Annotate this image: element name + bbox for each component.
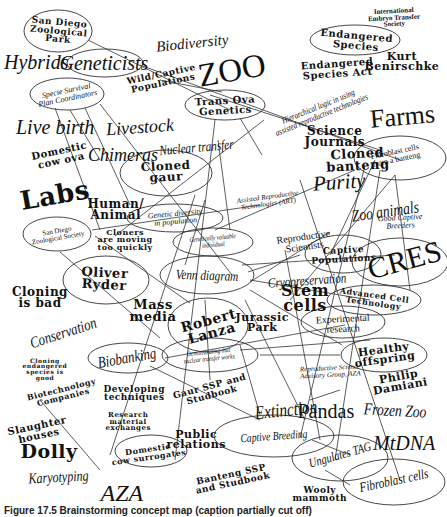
concept-cloners-moving: Cloners are moving too quickly [98, 229, 153, 252]
concept-aza: AZA [101, 482, 144, 505]
connector-line [218, 140, 230, 230]
concept-live-birth: Live birth [16, 118, 94, 137]
concept-science-journals: Science Journals [305, 126, 366, 149]
concept-stem-cells: Stem cells [281, 283, 329, 313]
concept-cloning-endangered: Cloning endangered species is good [23, 358, 68, 381]
concept-dolly: Dolly [21, 442, 78, 460]
concept-jurassic-park: Jurassic Park [236, 313, 289, 334]
concept-farms: Farms [369, 102, 436, 132]
concept-karyotyping: Karyotyping [28, 468, 89, 485]
concept-mass-media: Mass media [130, 299, 177, 324]
concept-livestock: Livestock [105, 116, 174, 138]
concept-mtdna: MtDNA [373, 434, 435, 453]
concept-endangered-species-act: Endangered Species Act [300, 56, 374, 80]
concept-cloned-gaur: Cloned gaur [140, 159, 191, 184]
concept-international-embryo: International Embryo Transfer Society [368, 7, 421, 30]
concept-reproductive-science-advisory: Reproductive Science Advisory Group, AZA [300, 363, 361, 379]
concept-human-animal: Human/ Animal [88, 199, 145, 222]
concept-frozen-zoo: Frozen Zoo [363, 401, 426, 420]
concept-cloning-is-bad: Cloning is bad [12, 287, 68, 310]
connector-line [240, 340, 370, 350]
concept-pandas: Pandas [298, 402, 355, 421]
concept-developing-techniques: Developing techniques [104, 385, 165, 402]
concept-san-diego-zoological-park: San Diego Zoological Park [28, 16, 87, 47]
concept-oliver-ryder: Oliver Ryder [80, 265, 128, 292]
concept-research-material: Research material exchanges [106, 412, 151, 432]
concept-kurt-benirschke: Kurt Benirschke [365, 52, 440, 73]
concept-experimental-research: Experimental research [316, 312, 371, 334]
figure-caption: Figure 17.5 Brainstorming concept map (c… [4, 505, 312, 516]
concept-geneticists: Geneticists [60, 54, 149, 73]
concept-trans-ova-genetics: Trans Ova Genetics [195, 94, 256, 116]
concept-wooly-mammoth: Wooly mammoth [293, 486, 348, 503]
connector-line [325, 470, 350, 485]
concept-venn-diagram: Venn diagram [176, 267, 239, 282]
concept-purity: Purity [312, 171, 366, 195]
concept-good-captive-breeders: Good Captive Breeders [377, 212, 422, 230]
connector-line [248, 255, 300, 272]
